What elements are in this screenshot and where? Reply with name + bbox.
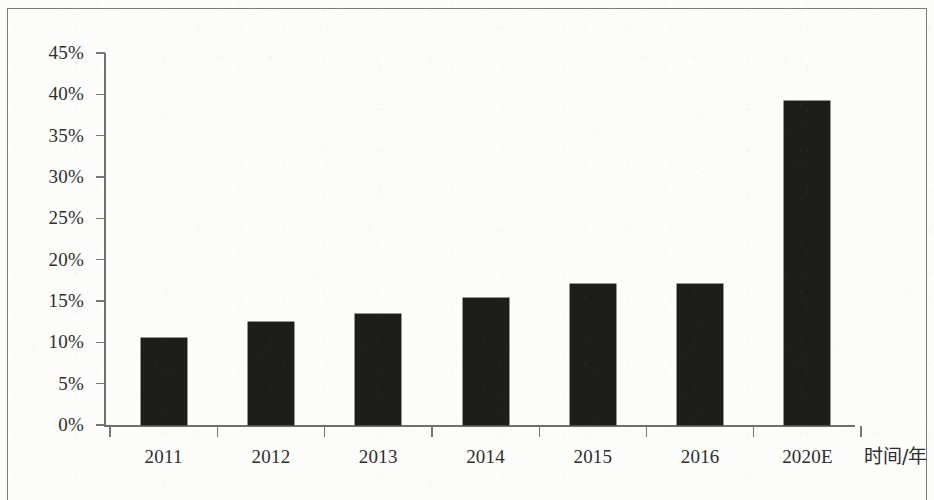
- x-axis-tick-label: 2015: [543, 447, 643, 466]
- y-axis-tick: [96, 424, 105, 425]
- x-axis-tick: [109, 426, 110, 437]
- bar: [677, 284, 723, 425]
- y-axis-tick: [96, 94, 105, 95]
- x-axis-tick-label: 2012: [221, 447, 321, 466]
- bar: [355, 314, 401, 425]
- x-axis-tick: [860, 426, 861, 437]
- y-axis-tick-label: 35%: [20, 126, 84, 145]
- x-axis-tick: [431, 426, 432, 437]
- y-axis-tick: [96, 52, 105, 53]
- bar: [784, 101, 830, 425]
- bar: [141, 338, 187, 425]
- y-axis-tick-label: 10%: [20, 332, 84, 351]
- y-axis-tick: [96, 218, 105, 219]
- x-axis-tick-label: 2011: [114, 447, 214, 466]
- y-axis-tick-label: 20%: [20, 250, 84, 269]
- x-axis-tick-label: 2016: [650, 447, 750, 466]
- x-axis-tick: [324, 426, 325, 437]
- y-axis-tick: [96, 300, 105, 301]
- x-axis-tick-label: 2020E: [757, 447, 857, 466]
- y-axis-tick-label: 0%: [20, 415, 84, 434]
- x-axis-tick: [217, 426, 218, 437]
- y-axis-tick-label: 40%: [20, 84, 84, 103]
- x-axis-tick-label: 2014: [436, 447, 536, 466]
- x-axis-tick: [539, 426, 540, 437]
- y-axis-tick-label: 45%: [20, 43, 84, 62]
- x-axis-title: 时间/年: [864, 447, 927, 466]
- y-axis-line: [104, 53, 106, 426]
- bar: [570, 284, 616, 425]
- y-axis-tick: [96, 342, 105, 343]
- y-axis-tick: [96, 259, 105, 260]
- x-axis-tick-label: 2013: [328, 447, 428, 466]
- bar: [248, 322, 294, 425]
- y-axis-tick-label: 30%: [20, 167, 84, 186]
- y-axis-tick-label: 25%: [20, 208, 84, 227]
- y-axis-tick: [96, 383, 105, 384]
- y-axis-tick-label: 15%: [20, 291, 84, 310]
- bar: [463, 298, 509, 425]
- y-axis-tick: [96, 135, 105, 136]
- x-axis-tick: [646, 426, 647, 437]
- y-axis-tick: [96, 176, 105, 177]
- y-axis-tick-label: 5%: [20, 374, 84, 393]
- x-axis-tick: [753, 426, 754, 437]
